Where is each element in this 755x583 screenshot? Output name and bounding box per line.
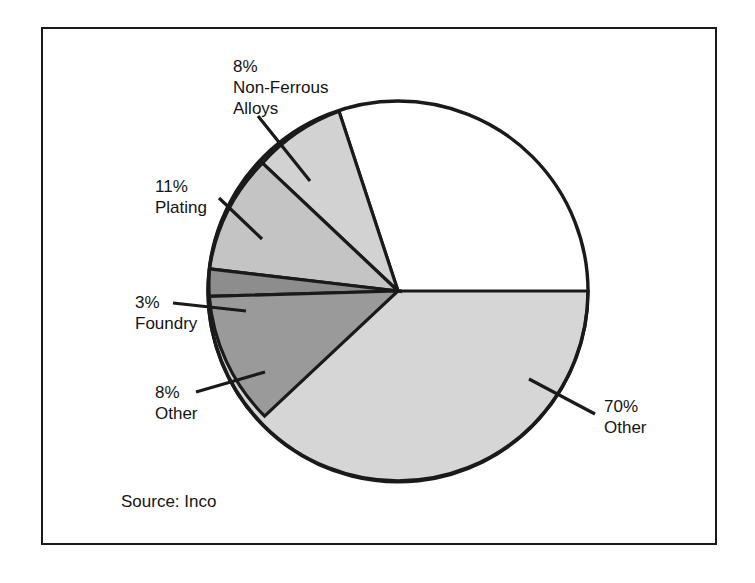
callout-label-foundry: 3% Foundry — [135, 292, 197, 334]
callout-percent-non-ferrous-alloys: 8% — [233, 56, 328, 77]
callout-label-plating: 11% Plating — [155, 176, 207, 218]
callout-name-other-minor: Other — [155, 403, 198, 424]
callout-name-line1-non-ferrous-alloys: Non-Ferrous — [233, 77, 328, 98]
callout-name-foundry: Foundry — [135, 313, 197, 334]
callout-percent-other-minor: 8% — [155, 382, 198, 403]
callout-percent-plating: 11% — [155, 176, 207, 197]
callout-percent-other-major: 70% — [604, 396, 647, 417]
callout-name-line2-non-ferrous-alloys: Alloys — [233, 98, 328, 119]
chart-page: 8% Non-Ferrous Alloys 11% Plating 3% Fou… — [0, 0, 755, 583]
source-note: Source: Inco — [121, 492, 216, 512]
pie-chart-graphic — [0, 0, 755, 583]
callout-percent-foundry: 3% — [135, 292, 197, 313]
callout-label-non-ferrous-alloys: 8% Non-Ferrous Alloys — [233, 56, 328, 119]
callout-label-other-major: 70% Other — [604, 396, 647, 438]
callout-name-plating: Plating — [155, 197, 207, 218]
callout-name-other-major: Other — [604, 417, 647, 438]
callout-label-other-minor: 8% Other — [155, 382, 198, 424]
